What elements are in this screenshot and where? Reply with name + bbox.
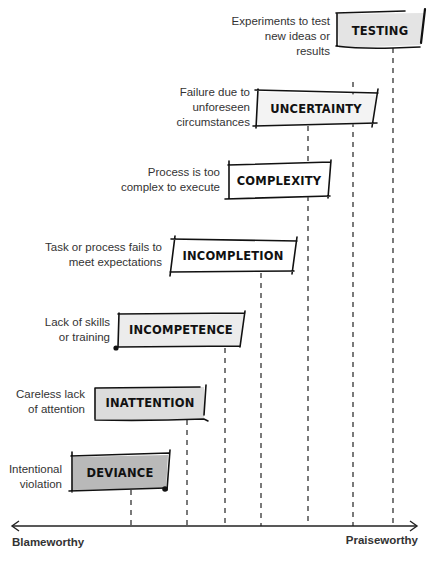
description-line: complex to execute	[100, 180, 220, 195]
description-line: circumstances	[150, 115, 250, 130]
description-line: Intentional	[0, 462, 62, 477]
description-line: Careless lack	[0, 387, 85, 402]
description-inattention: Careless lack of attention	[0, 387, 85, 417]
description-incompletion: Task or process fails to meet expectatio…	[20, 240, 162, 270]
axis-label-praiseworthy: Praiseworthy	[346, 534, 418, 546]
description-line: new ideas or results	[230, 29, 330, 59]
description-testing: Experiments to test new ideas or results	[230, 14, 330, 59]
description-line: Experiments to test	[230, 14, 330, 29]
category-box-testing: TESTING	[338, 14, 422, 47]
category-box-inattention: INATTENTION	[96, 387, 204, 419]
description-line: or training	[10, 330, 110, 345]
description-line: Lack of skills	[10, 315, 110, 330]
description-line: meet expectations	[20, 255, 162, 270]
description-line: of attention	[0, 402, 85, 417]
description-uncertainty: Failure due to unforeseen circumstances	[150, 85, 250, 130]
axis-label-blameworthy: Blameworthy	[12, 536, 84, 548]
description-line: unforeseen	[150, 100, 250, 115]
category-box-incompletion: INCOMPLETION	[173, 240, 293, 272]
category-box-deviance: DEVIANCE	[73, 456, 167, 489]
description-deviance: Intentional violation	[0, 462, 62, 492]
category-box-uncertainty: UNCERTAINTY	[258, 92, 374, 125]
description-complexity: Process is too complex to execute	[100, 165, 220, 195]
description-line: violation	[0, 477, 62, 492]
category-box-complexity: COMPLEXITY	[230, 164, 328, 197]
category-box-incompetence: INCOMPETENCE	[119, 314, 243, 346]
description-line: Task or process fails to	[20, 240, 162, 255]
description-line: Process is too	[100, 165, 220, 180]
description-line: Failure due to	[150, 85, 250, 100]
description-incompetence: Lack of skills or training	[10, 315, 110, 345]
